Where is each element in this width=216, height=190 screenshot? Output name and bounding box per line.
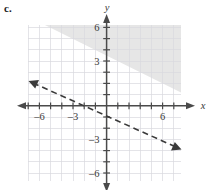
x-tick-label-6: 6 — [160, 111, 165, 122]
x-tick-label-neg3: –3 — [67, 111, 79, 122]
y-tick-label-neg3: –3 — [88, 134, 100, 145]
y-tick-label-3: 3 — [94, 56, 99, 67]
y-axis-label: y — [104, 2, 110, 13]
x-tick-label-neg6: –6 — [33, 111, 45, 122]
graph-figure: c. — [0, 0, 216, 190]
y-tick-label-6: 6 — [94, 22, 99, 33]
coordinate-plane: –6 –3 6 6 3 –3 –6 x y — [0, 0, 216, 190]
y-tick-label-neg6: –6 — [88, 168, 100, 179]
part-label: c. — [4, 3, 12, 14]
x-axis-label: x — [200, 100, 206, 111]
